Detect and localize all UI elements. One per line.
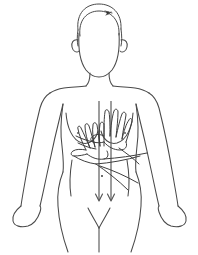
arrow-midpoint-dot bbox=[101, 175, 103, 177]
anatomical-line-drawing bbox=[0, 0, 198, 255]
breast-self-exam-figure: Line drawing of a female upper body with… bbox=[0, 0, 198, 255]
